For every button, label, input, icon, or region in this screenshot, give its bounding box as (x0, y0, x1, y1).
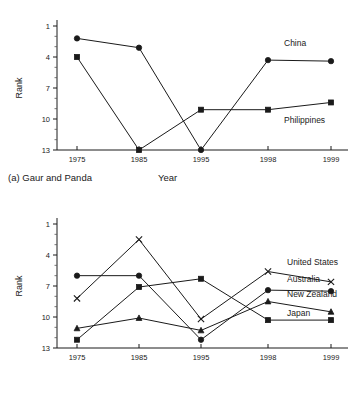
figure-page: 1471013Rank19751985199519981999ChinaPhil… (0, 0, 354, 397)
series-label-united-states: United States (287, 257, 338, 267)
data-point-philippines-1999 (329, 100, 334, 105)
data-point-china-1975 (74, 36, 79, 41)
series-line-philippines (77, 57, 331, 150)
chart-panel-elephants: 1471013Rank19751985199519981999United St… (0, 198, 354, 397)
y-axis-tick-label: 4 (46, 251, 50, 260)
y-axis-tick-label: 10 (42, 115, 50, 124)
x-axis-tick-label: 1995 (193, 155, 210, 164)
data-point-china-1985 (136, 45, 141, 50)
x-axis-tick-label: 1985 (131, 155, 148, 164)
x-axis-tick-label: 1995 (193, 353, 210, 362)
y-axis-tick-label: 1 (46, 22, 50, 31)
series-label-philippines: Philippines (284, 115, 325, 125)
data-point-united-states-1985 (136, 236, 142, 242)
x-axis-tick-label: 1998 (260, 353, 277, 362)
data-point-china-1999 (328, 58, 333, 63)
data-point-australia-1998 (265, 287, 270, 292)
data-point-australia-1995 (198, 337, 203, 342)
y-axis-tick-label: 10 (42, 313, 50, 322)
y-axis-tick-label: 7 (46, 282, 50, 291)
x-axis-tick-label: 1999 (323, 353, 340, 362)
chart-panel-gaur-and-panda: 1471013Rank19751985199519981999ChinaPhil… (0, 0, 354, 198)
data-point-australia-1975 (74, 273, 79, 278)
y-axis-title: Rank (14, 77, 24, 99)
data-point-philippines-1995 (199, 107, 204, 112)
data-point-philippines-1998 (266, 107, 271, 112)
data-point-china-1998 (265, 57, 270, 62)
series-label-new-zealand: New Zealand (287, 289, 337, 299)
series-label-china: China (284, 38, 306, 48)
x-axis-tick-label: 1975 (69, 155, 86, 164)
data-point-japan-1975 (75, 337, 80, 342)
y-axis-tick-label: 7 (46, 84, 50, 93)
y-axis-tick-label: 4 (46, 53, 50, 62)
data-point-japan-1998 (266, 318, 271, 323)
series-label-japan: Japan (287, 308, 310, 318)
x-axis-tick-label: 1999 (323, 155, 340, 164)
series-label-australia: Australia (287, 274, 320, 284)
data-point-philippines-1975 (75, 55, 80, 60)
x-axis-tick-label: 1985 (131, 353, 148, 362)
chart-svg-a: 1471013Rank19751985199519981999ChinaPhil… (0, 0, 354, 168)
data-point-china-1995 (198, 147, 203, 152)
data-point-new-zealand-1998 (265, 298, 271, 304)
data-point-japan-1999 (329, 318, 334, 323)
data-point-united-states-1995 (198, 316, 204, 322)
y-axis-title: Rank (14, 275, 24, 297)
data-point-australia-1985 (136, 273, 141, 278)
data-point-philippines-1985 (137, 148, 142, 153)
y-axis-tick-label: 13 (42, 344, 50, 353)
plot-area-b: 1471013Rank19751985199519981999United St… (0, 198, 354, 366)
y-axis-tick-label: 13 (42, 146, 50, 155)
x-axis-title-a: Year (158, 172, 177, 183)
series-line-china (77, 38, 331, 150)
data-point-new-zealand-1985 (136, 315, 142, 321)
x-axis-tick-label: 1975 (69, 353, 86, 362)
x-axis-tick-label: 1998 (260, 155, 277, 164)
chart-caption-a: (a) Gaur and Panda (8, 172, 92, 183)
data-point-japan-1985 (137, 285, 142, 290)
data-point-united-states-1975 (74, 295, 80, 301)
data-point-japan-1995 (199, 276, 204, 281)
plot-area-a: 1471013Rank19751985199519981999ChinaPhil… (0, 0, 354, 168)
y-axis-tick-label: 1 (46, 220, 50, 229)
chart-svg-b: 1471013Rank19751985199519981999United St… (0, 198, 354, 366)
